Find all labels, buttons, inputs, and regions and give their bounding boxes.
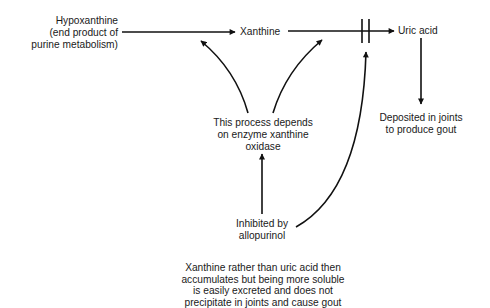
- deposited-line-2: to produce gout: [371, 124, 471, 136]
- hypoxanthine-line-3: purine metabolism): [31, 39, 118, 51]
- node-deposited: Deposited in joints to produce gout: [371, 112, 471, 136]
- inhibitor-line-2: allopurinol: [222, 230, 302, 242]
- outcome-line-3: is easily excreted and does not: [163, 285, 363, 297]
- node-uric-acid: Uric acid: [398, 25, 438, 37]
- outcome-line-1: Xanthine rather than uric acid then: [163, 262, 363, 274]
- deposited-line-1: Deposited in joints: [371, 112, 471, 124]
- node-outcome-note: Xanthine rather than uric acid then accu…: [163, 262, 363, 308]
- outcome-line-2: accumulates but being more soluble: [163, 274, 363, 286]
- outcome-line-4: precipitate in joints and cause gout: [163, 297, 363, 308]
- node-hypoxanthine: Hypoxanthine (end product of purine meta…: [31, 15, 118, 51]
- curved-arrow-enzyme-to-step2: [273, 40, 322, 113]
- inhibitor-line-1: Inhibited by: [222, 218, 302, 230]
- curved-arrow-enzyme-to-step1: [201, 41, 248, 113]
- enzyme-line-2: on enzyme xanthine: [203, 129, 323, 141]
- node-enzyme-note: This process depends on enzyme xanthine …: [203, 117, 323, 153]
- node-inhibitor: Inhibited by allopurinol: [222, 218, 302, 242]
- hypoxanthine-line-1: Hypoxanthine: [31, 15, 118, 27]
- enzyme-line-3: oxidase: [203, 141, 323, 153]
- enzyme-line-1: This process depends: [203, 117, 323, 129]
- hypoxanthine-line-2: (end product of: [31, 27, 118, 39]
- node-xanthine: Xanthine: [240, 26, 280, 38]
